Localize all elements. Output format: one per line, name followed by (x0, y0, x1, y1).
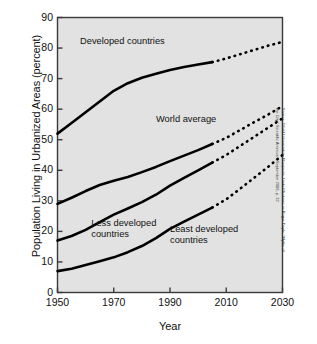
source-note: Source: World Urbanization Prospects, Un… (274, 108, 286, 258)
annotation-0: Developed countries (80, 36, 165, 47)
annotation-3: Least developed countries (170, 224, 238, 247)
chart-figure: Population Living in Urbanized Areas (pe… (0, 0, 317, 344)
annotation-1: World average (156, 114, 216, 125)
plot-area (0, 0, 317, 344)
annotation-2: Less developed countries (91, 218, 156, 241)
